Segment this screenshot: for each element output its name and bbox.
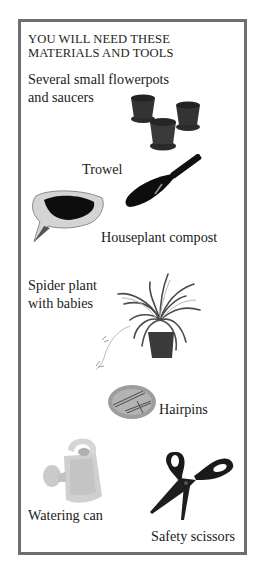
section-heading: YOU WILL NEED THESE MATERIALS AND TOOLS xyxy=(28,32,174,60)
flowerpots-label-line-1: Several small flowerpots xyxy=(28,70,169,88)
scissors-icon xyxy=(148,450,238,522)
scissors-label: Safety scissors xyxy=(151,527,235,545)
trowel-icon xyxy=(122,154,204,210)
watering-can-icon xyxy=(40,430,106,506)
hairpins-dish-icon xyxy=(107,383,157,421)
spider-plant-label-line-1: Spider plant xyxy=(28,276,97,294)
compost-bag-icon xyxy=(30,186,108,244)
spider-plant-label: Spider plant with babies xyxy=(28,276,97,312)
spider-plant-label-line-2: with babies xyxy=(28,294,97,312)
watering-can-label: Watering can xyxy=(28,506,103,524)
flowerpots-icon xyxy=(128,94,204,154)
compost-label: Houseplant compost xyxy=(101,228,217,246)
heading-line-1: YOU WILL NEED THESE xyxy=(28,32,174,46)
hairpins-label: Hairpins xyxy=(159,400,208,418)
spider-plant-icon xyxy=(90,270,206,372)
trowel-label: Trowel xyxy=(82,160,122,178)
heading-line-2: MATERIALS AND TOOLS xyxy=(28,46,174,60)
